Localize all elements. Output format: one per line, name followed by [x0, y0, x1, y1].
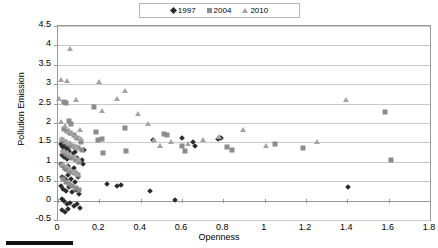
data-point-2010 [145, 121, 151, 126]
data-point-1997 [118, 182, 124, 188]
data-point-2010 [314, 139, 320, 144]
y-tick-mark [54, 84, 58, 85]
y-tick-label: 3 [17, 78, 51, 87]
diamond-icon [170, 7, 177, 14]
plot-area [57, 25, 431, 221]
data-point-2004 [164, 132, 169, 137]
square-icon [207, 8, 212, 13]
footer-bar [6, 241, 73, 245]
data-point-2004 [94, 129, 99, 134]
data-point-2004 [123, 125, 128, 130]
gridline [58, 104, 430, 105]
y-tick-mark [54, 45, 58, 46]
data-point-2004 [382, 110, 387, 115]
x-tick-mark [389, 199, 390, 203]
gridline [58, 26, 430, 27]
data-point-2010 [151, 137, 157, 142]
x-tick-label: 1.6 [373, 223, 403, 232]
data-point-2010 [74, 145, 80, 150]
legend-item-2004: 2004 [207, 7, 232, 15]
y-tick-mark [54, 162, 58, 163]
y-tick-mark [54, 104, 58, 105]
data-point-2010 [64, 78, 70, 83]
gridline [58, 181, 430, 182]
y-tick-label: 1 [17, 156, 51, 165]
gridline [58, 123, 430, 124]
data-point-2004 [69, 121, 74, 126]
data-point-2004 [183, 148, 188, 153]
data-point-2004 [100, 136, 105, 141]
x-tick-label: 0 [42, 223, 72, 232]
gridline [58, 162, 430, 163]
chart-legend: 1997 2004 2010 [139, 3, 300, 18]
y-tick-label: -0.5 [17, 214, 51, 223]
data-point-1997 [346, 184, 352, 190]
data-point-1997 [77, 205, 83, 211]
data-point-2010 [343, 97, 349, 102]
data-point-1997 [193, 143, 199, 149]
gridline [58, 65, 430, 66]
x-tick-mark [141, 199, 142, 203]
x-tick-label: 1.2 [290, 223, 320, 232]
x-tick-label: 0.8 [207, 223, 237, 232]
legend-item-1997: 1997 [171, 7, 196, 15]
y-tick-mark [54, 181, 58, 182]
data-point-1997 [172, 197, 178, 203]
x-tick-mark [223, 199, 224, 203]
data-point-2004 [273, 142, 278, 147]
data-point-2010 [96, 79, 102, 84]
x-tick-label: 0.2 [83, 223, 113, 232]
x-tick-mark [430, 199, 431, 203]
data-point-1997 [104, 181, 110, 187]
scatter-chart: 1997 2004 2010 Pollution Emission Openne… [0, 0, 438, 248]
data-point-2010 [73, 97, 79, 102]
x-tick-mark [306, 199, 307, 203]
data-point-2010 [200, 137, 206, 142]
data-point-2010 [99, 108, 105, 113]
data-point-2010 [58, 77, 64, 82]
data-point-1997 [179, 135, 185, 141]
legend-item-2010: 2010 [242, 7, 268, 15]
data-point-2004 [64, 100, 69, 105]
data-point-2010 [114, 96, 120, 101]
data-point-2004 [388, 157, 393, 162]
gridline [58, 220, 430, 221]
gridline [58, 142, 430, 143]
x-tick-label: 0.4 [125, 223, 155, 232]
data-point-2010 [263, 143, 269, 148]
data-point-1997 [147, 188, 153, 194]
y-tick-label: 0 [17, 195, 51, 204]
gridline [58, 84, 430, 85]
data-point-2010 [77, 127, 83, 132]
data-point-1997 [65, 206, 71, 212]
y-tick-mark [54, 26, 58, 27]
x-tick-mark [182, 199, 183, 203]
data-point-2010 [168, 139, 174, 144]
data-point-2004 [92, 104, 97, 109]
data-point-2010 [122, 88, 128, 93]
x-tick-mark [265, 199, 266, 203]
gridline [58, 45, 430, 46]
data-point-2004 [76, 187, 81, 192]
y-tick-label: 2 [17, 117, 51, 126]
y-tick-label: 4 [17, 39, 51, 48]
data-point-2010 [157, 143, 163, 148]
x-tick-label: 1 [249, 223, 279, 232]
data-point-2010 [56, 96, 62, 101]
data-point-2010 [240, 127, 246, 132]
legend-label-2004: 2004 [214, 7, 232, 15]
data-point-2010 [185, 141, 191, 146]
data-point-2010 [67, 46, 73, 51]
x-tick-label: 0.6 [166, 223, 196, 232]
data-point-2004 [229, 148, 234, 153]
triangle-icon [242, 8, 248, 13]
x-tick-mark [99, 199, 100, 203]
y-tick-mark [54, 65, 58, 66]
data-point-2010 [135, 111, 141, 116]
data-point-2010 [75, 157, 81, 162]
data-point-2004 [124, 148, 129, 153]
x-tick-mark [347, 199, 348, 203]
legend-label-2010: 2010 [250, 7, 268, 15]
y-tick-label: 3.5 [17, 59, 51, 68]
data-point-2004 [79, 148, 84, 153]
